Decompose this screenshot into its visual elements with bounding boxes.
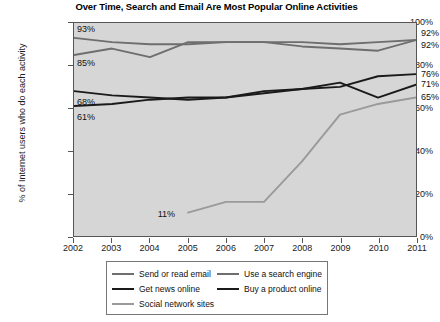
legend-label: Send or read email [139,269,211,279]
plot-area [73,22,417,237]
x-tick-mark [73,238,74,243]
x-tick-mark [226,238,227,243]
series-line [188,98,416,213]
legend-swatch-line-icon [217,273,239,275]
series-lines [74,23,416,236]
chart-legend: Send or read emailUse a search engineGet… [106,261,328,315]
y-axis-label: % of Internet users who do each activity [17,23,27,223]
legend-label: Get news online [139,284,200,294]
x-tick-mark [264,238,265,243]
data-label-start: 93% [77,24,95,34]
x-tick-mark [302,238,303,243]
data-label-start: 85% [77,58,95,68]
chart-title: Over Time, Search and Email Are Most Pop… [0,1,433,12]
data-label-end: 92% [421,40,439,50]
data-label-start: 68% [77,97,95,107]
legend-item[interactable]: Buy a product online [217,281,322,296]
x-tick-mark [341,238,342,243]
x-tick-mark [417,238,418,243]
legend-item[interactable]: Social network sites [112,296,217,311]
legend-swatch-line-icon [112,303,134,305]
data-label-end: 65% [421,92,439,102]
legend-label: Social network sites [139,299,214,309]
legend-item[interactable]: Use a search engine [217,266,322,281]
legend-swatch-line-icon [112,273,134,275]
data-label-end: 76% [421,69,439,79]
legend-swatch-line-icon [112,288,134,290]
x-tick-mark [111,238,112,243]
legend-swatch-line-icon [217,288,239,290]
x-tick-mark [379,238,380,243]
data-label-end: 71% [421,79,439,89]
x-tick-mark [149,238,150,243]
data-label-end: 92% [421,28,439,38]
legend-item[interactable]: Get news online [112,281,217,296]
x-tick-label: 2011 [394,243,440,253]
legend-label: Buy a product online [244,284,322,294]
legend-item[interactable]: Send or read email [112,266,217,281]
data-label-start: 11% [158,209,175,219]
legend-label: Use a search engine [244,269,322,279]
series-line [74,38,416,44]
data-label-start: 61% [77,112,95,122]
x-tick-mark [188,238,189,243]
